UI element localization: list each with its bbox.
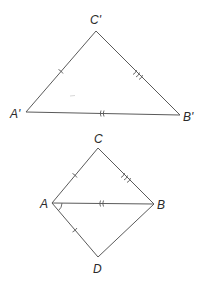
congruent-triangles-diagram: C' A' B' C A B D: [0, 0, 205, 284]
vertex-label-c-prime: C': [90, 13, 102, 27]
triangle-a-prime-b-prime-c-prime: C' A' B': [9, 13, 194, 124]
triple-tick-mark-icon: [121, 173, 131, 183]
segment-c-prime-b-prime: [96, 31, 180, 115]
segment-c-b: [98, 148, 154, 204]
vertex-label-b: B: [157, 198, 165, 212]
angle-arc-icon: [59, 203, 63, 211]
triple-tick-mark-icon: [133, 70, 143, 80]
smudge-mark: [70, 96, 75, 97]
vertex-label-b-prime: B': [183, 110, 194, 124]
segment-d-b: [98, 204, 154, 257]
vertex-label-d: D: [93, 262, 102, 276]
vertex-label-a: A: [39, 197, 48, 211]
vertex-label-c: C: [94, 132, 103, 146]
vertex-label-a-prime: A': [9, 107, 21, 121]
quadrilateral-acbd: C A B D: [39, 132, 165, 276]
